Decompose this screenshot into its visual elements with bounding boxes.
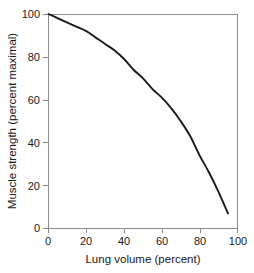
x-axis-title: Lung volume (percent) bbox=[85, 253, 200, 265]
axes-frame bbox=[48, 14, 238, 229]
y-tick-label-40: 40 bbox=[28, 137, 40, 149]
chart-figure: 100 80 60 40 20 0 0 20 40 60 80 100 bbox=[0, 0, 254, 273]
x-tick-label-20: 20 bbox=[80, 235, 92, 247]
y-tick-label-100: 100 bbox=[22, 8, 40, 20]
y-axis-tick-labels: 100 80 60 40 20 0 bbox=[22, 8, 40, 234]
y-tick-label-60: 60 bbox=[28, 94, 40, 106]
y-tick-label-0: 0 bbox=[34, 222, 40, 234]
muscle-strength-lung-volume-chart: 100 80 60 40 20 0 0 20 40 60 80 100 bbox=[0, 0, 254, 273]
x-tick-label-100: 100 bbox=[229, 235, 247, 247]
x-tick-label-60: 60 bbox=[156, 235, 168, 247]
y-axis-ticks bbox=[43, 15, 48, 229]
data-series-line bbox=[49, 14, 229, 213]
y-tick-label-80: 80 bbox=[28, 51, 40, 63]
x-tick-label-40: 40 bbox=[118, 235, 130, 247]
x-tick-label-80: 80 bbox=[194, 235, 206, 247]
x-axis-tick-labels: 0 20 40 60 80 100 bbox=[45, 235, 247, 247]
x-tick-label-0: 0 bbox=[45, 235, 51, 247]
y-tick-label-20: 20 bbox=[28, 180, 40, 192]
y-axis-title: Muscle strength (percent maximal) bbox=[6, 33, 18, 210]
